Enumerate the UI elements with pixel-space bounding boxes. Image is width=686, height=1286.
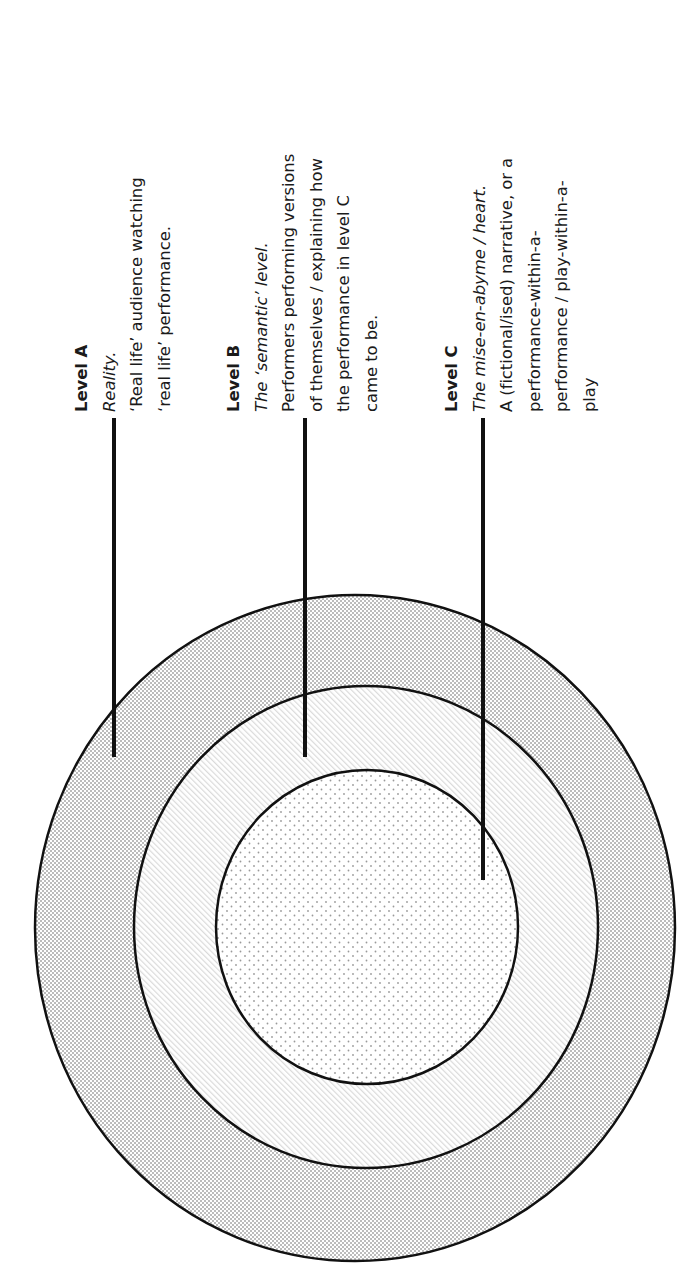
level-b-label: Level B The ‘semantic’ level. Performers… (220, 12, 385, 412)
level-c-subtitle-part: The (470, 376, 489, 412)
level-b-heading: Level B (220, 12, 248, 412)
level-a-label: Level A Reality. ‘Real life’ audience wa… (68, 12, 178, 412)
level-c-subtitle-part: heart. (470, 185, 489, 234)
level-c-subtitle: The mise-en-abyme / heart. (466, 12, 494, 412)
level-c-subtitle-term: mise-en-abyme (470, 249, 489, 376)
level-c-description-line: play (576, 12, 604, 412)
level-c-description-line: performance-within-a- (521, 12, 549, 412)
level-a-heading: Level A (68, 12, 96, 412)
level-a-description-line: ‘real life’ performance. (151, 12, 179, 412)
level-b-description-line: Performers performing versions (275, 12, 303, 412)
level-a-subtitle: Reality. (96, 12, 124, 412)
nested-levels-diagram: Level A Reality. ‘Real life’ audience wa… (0, 0, 686, 1286)
level-c-subtitle-part: / (470, 234, 489, 250)
level-b-description-line: the performance in level C (330, 12, 358, 412)
level-c-description-line: performance / play-within-a- (548, 12, 576, 412)
level-c-heading: Level C (438, 12, 466, 412)
level-b-description-line: came to be. (358, 12, 386, 412)
level-c-label: Level C The mise-en-abyme / heart. A (fi… (438, 12, 603, 412)
level-b-description-line: of themselves / explaining how (303, 12, 331, 412)
level-c-description-line: A (fictional/ised) narrative, or a (493, 12, 521, 412)
level-b-subtitle: The ‘semantic’ level. (248, 12, 276, 412)
level-a-description-line: ‘Real life’ audience watching (123, 12, 151, 412)
level-c-core (216, 770, 518, 1084)
